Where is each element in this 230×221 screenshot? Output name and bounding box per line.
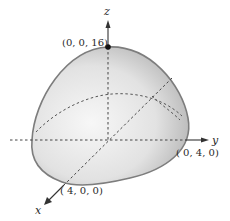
x-intercept-label: ( 4, 0, 0): [60, 185, 103, 196]
x-axis-label: x: [35, 204, 42, 217]
paraboloid-diagram: z y x (0, 0, 16) ( 0, 4, 0) ( 4, 0, 0): [0, 0, 230, 221]
z-axis-label: z: [103, 5, 110, 18]
apex-point-label: (0, 0, 16): [62, 37, 108, 48]
y-axis-label: y: [211, 134, 219, 147]
z-axis-arrowhead: [106, 20, 111, 28]
y-axis-arrowhead: [201, 138, 209, 143]
y-intercept-label: ( 0, 4, 0): [176, 147, 219, 158]
